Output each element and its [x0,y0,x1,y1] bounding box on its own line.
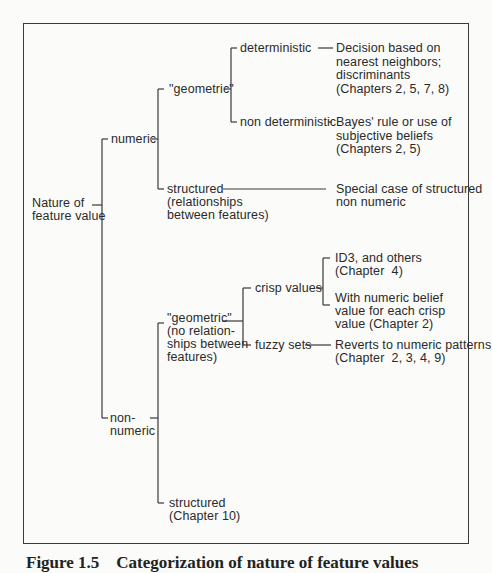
node-crisp-values: crisp values [255,282,322,295]
node-non-numeric: non- numeric [110,412,155,438]
result-crisp-values-belief: With numeric belief value for each crisp… [335,292,445,331]
root-node-nature-of-feature-value: Nature of feature value [32,197,106,223]
node-non-numeric-geometric: "geometric" (no relation- ships between … [167,312,248,364]
result-deterministic: Decision based on nearest neighbors; dis… [336,42,449,96]
node-deterministic: deterministic [240,42,311,55]
node-numeric-geometric: "geometric" [169,83,234,96]
figure-caption: Figure 1.5 Categorization of nature of f… [26,553,418,573]
node-non-deterministic: non deterministic [240,116,336,129]
result-crisp-values-id3: ID3, and others (Chapter 4) [335,252,422,278]
node-numeric: numeric [111,133,156,146]
node-non-numeric-structured: structured (Chapter 10) [169,497,240,523]
node-numeric-structured: structured (relationships between featur… [167,183,269,222]
node-fuzzy-sets: fuzzy sets [255,339,312,352]
result-fuzzy-sets: Reverts to numeric patterns (Chapter 2, … [335,339,491,365]
result-non-deterministic: Bayes' rule or use of subjective beliefs… [336,116,452,157]
result-numeric-structured: Special case of structured non numeric [336,183,482,209]
